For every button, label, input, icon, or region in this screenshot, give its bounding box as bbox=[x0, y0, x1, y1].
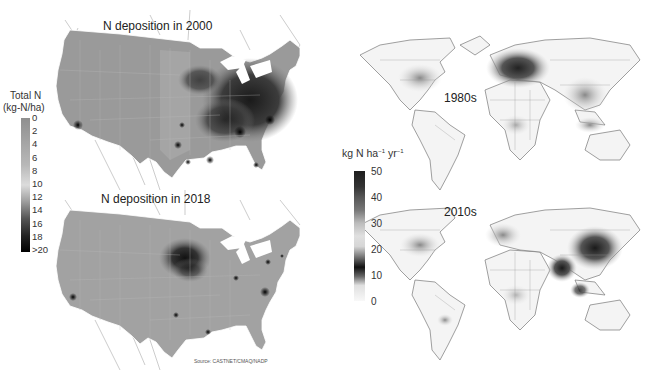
world-colorbar bbox=[354, 171, 365, 301]
world-colorbar-ticks: 50 40 30 20 10 0 bbox=[371, 167, 401, 307]
us-landmass bbox=[56, 210, 300, 358]
world-legend-units: kg N ha−1 yr−1 bbox=[342, 147, 404, 159]
us-colorbar-ticks: 0 2 4 6 8 10 12 14 16 18 >20 bbox=[32, 113, 62, 253]
us-colorbar bbox=[21, 118, 30, 252]
us-legend: Total N (kg-N/ha) 0 2 4 6 8 10 12 14 16 … bbox=[0, 90, 60, 260]
world-legend: kg N ha−1 yr−1 50 40 30 20 10 0 bbox=[340, 145, 430, 310]
map-1980s-label: 1980s bbox=[444, 91, 477, 105]
map-2000-title: N deposition in 2000 bbox=[103, 19, 212, 33]
map-2010s-label: 2010s bbox=[444, 205, 477, 219]
legend-units: (kg-N/ha) bbox=[3, 102, 45, 113]
source-credit: Source: CASTNET/CMAQ/NADP bbox=[194, 358, 268, 364]
map-2018-title: N deposition in 2018 bbox=[101, 192, 210, 206]
legend-title: Total N bbox=[10, 90, 41, 101]
